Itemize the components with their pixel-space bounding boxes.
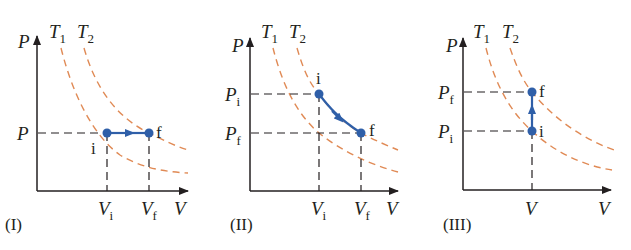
p-axis-label: P [231, 35, 244, 56]
x-tick-vf: Vf [141, 198, 158, 223]
point-final [145, 129, 154, 138]
isotherm-t2 [510, 48, 614, 150]
y-tick-p: P [16, 123, 29, 144]
point-final-label: f [156, 123, 162, 142]
point-final [357, 129, 366, 138]
isotherm-t1 [61, 48, 188, 173]
isotherm-t2 [297, 48, 398, 150]
x-tick-vi: Vi [311, 198, 327, 223]
point-final-label: f [369, 121, 375, 140]
t1-label: T1 [261, 21, 278, 46]
isotherm-t2 [84, 48, 188, 150]
x-tick-vf: Vf [354, 198, 371, 223]
panel-3: P T1 T2 Pf Pi f i V V (III) [437, 21, 614, 234]
point-initial-label: i [539, 122, 544, 141]
pv-diagrams: P T1 T2 P i f Vi Vf V (I) P T1 T2 Pi Pf … [0, 0, 631, 250]
point-initial-label: i [316, 69, 321, 88]
x-tick-vi: Vi [98, 198, 114, 223]
y-tick-pf: Pf [437, 82, 455, 107]
v-axis-label: V [386, 198, 400, 219]
point-final-label: f [539, 82, 545, 101]
panel-caption: (III) [443, 215, 471, 234]
process-path [319, 94, 361, 133]
isotherm-t1 [486, 48, 612, 170]
v-axis-label: V [598, 198, 612, 219]
x-tick-v: V [525, 198, 539, 219]
point-initial [315, 90, 324, 99]
t2-label: T2 [502, 21, 519, 46]
v-axis-label: V [174, 198, 188, 219]
p-axis-label: P [17, 31, 30, 52]
y-tick-pf: Pf [224, 123, 242, 148]
t1-label: T1 [473, 21, 490, 46]
t2-label: T2 [289, 21, 306, 46]
point-initial-label: i [91, 139, 96, 158]
point-initial [103, 129, 112, 138]
p-axis-label: P [445, 35, 458, 56]
panel-caption: (I) [5, 215, 22, 234]
y-tick-pi: Pi [437, 121, 454, 146]
panel-1: P T1 T2 P i f Vi Vf V (I) [5, 21, 188, 234]
point-final [528, 88, 537, 97]
panel-2: P T1 T2 Pi Pf i f Vi Vf V (II) [224, 21, 400, 234]
t1-label: T1 [49, 21, 66, 46]
panel-caption: (II) [230, 215, 253, 234]
isotherm-t1 [273, 48, 398, 172]
y-tick-pi: Pi [224, 84, 241, 109]
t2-label: T2 [77, 21, 94, 46]
point-initial [528, 127, 537, 136]
